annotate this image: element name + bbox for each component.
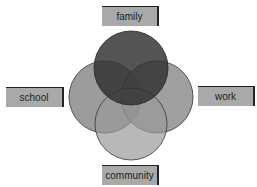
- label-community-text: community: [105, 170, 153, 181]
- label-school: school: [6, 87, 64, 107]
- circle-family: [94, 31, 168, 105]
- label-family-text: family: [116, 11, 142, 22]
- label-school-text: school: [20, 92, 49, 103]
- label-work-text: work: [215, 91, 236, 102]
- label-work: work: [198, 86, 255, 106]
- label-family: family: [102, 6, 159, 26]
- label-community: community: [102, 165, 159, 185]
